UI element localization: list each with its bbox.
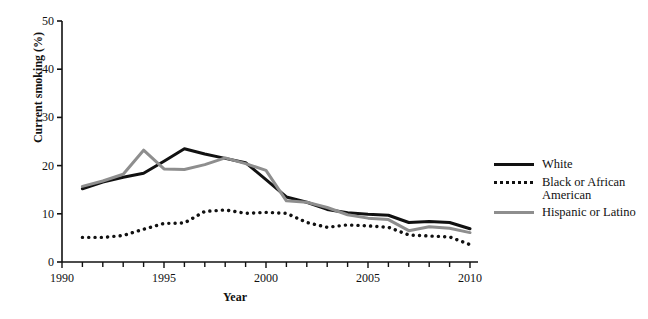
y-axis-title: Current smoking (%)	[31, 0, 46, 188]
x-tick-label: 2005	[356, 271, 380, 285]
series-line-black-or-african-american	[82, 210, 470, 245]
chart-legend: White Black or African American Hispanic…	[494, 158, 648, 224]
y-tick-label: 0	[48, 255, 54, 269]
solid-dark-line-icon	[494, 158, 534, 172]
x-axis-ticks: 19901995200020052010	[50, 262, 482, 285]
legend-item-white: White	[494, 158, 648, 172]
x-tick-label: 1990	[50, 271, 74, 285]
x-tick-label: 1995	[152, 271, 176, 285]
legend-label-hispanic-or-latino: Hispanic or Latino	[542, 206, 636, 219]
series-line-hispanic-or-latino	[82, 150, 470, 232]
x-tick-label: 2000	[254, 271, 278, 285]
legend-item-hispanic-or-latino: Hispanic or Latino	[494, 206, 648, 220]
legend-label-black-or-african-american: Black or African American	[542, 176, 625, 202]
series-layer	[82, 149, 470, 245]
legend-label-white: White	[542, 158, 573, 171]
chart-container: 01020304050 19901995200020052010 Current…	[0, 0, 648, 319]
y-tick-label: 10	[42, 207, 54, 221]
solid-gray-line-icon	[494, 206, 534, 220]
x-axis-title: Year	[0, 290, 470, 305]
series-line-white	[82, 149, 470, 229]
dotted-dark-line-icon	[494, 176, 534, 190]
x-tick-label: 2010	[458, 271, 482, 285]
legend-item-black-or-african-american: Black or African American	[494, 176, 648, 202]
axis-layer	[62, 21, 478, 262]
